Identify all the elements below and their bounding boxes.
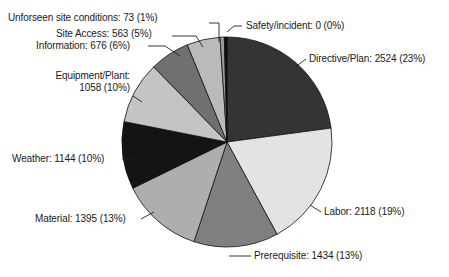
slice-label-information: Information: 676 (6%) [36, 40, 130, 52]
slice-label-equipment-plant-line1: Equipment/Plant: [55, 70, 130, 81]
pie-chart-figure: Unforseen site conditions: 73 (1%) Site … [0, 0, 449, 277]
leader-line-safety [227, 26, 242, 32]
slice-label-labor: Labor: 2118 (19%) [324, 206, 404, 218]
pie-slice-group [122, 37, 332, 247]
slice-label-equipment-plant-line2: 1058 (10%) [79, 82, 130, 93]
leader-line-labor [310, 205, 321, 212]
slice-label-directive-plan: Directive/Plan: 2524 (23%) [309, 53, 425, 65]
slice-label-material: Material: 1395 (13%) [35, 213, 126, 225]
slice-label-site-access: Site Access: 563 (5%) [56, 28, 152, 40]
slice-label-equipment-plant: Equipment/Plant: 1058 (10%) [22, 70, 130, 94]
slice-label-prerequisite: Prerequisite: 1434 (13%) [254, 250, 362, 262]
slice-label-weather: Weather: 1144 (10%) [12, 153, 104, 165]
slice-label-safety-incident: Safety/incident: 0 (0%) [246, 20, 344, 32]
slice-label-unforseen-site-conditions: Unforseen site conditions: 73 (1%) [8, 12, 157, 24]
